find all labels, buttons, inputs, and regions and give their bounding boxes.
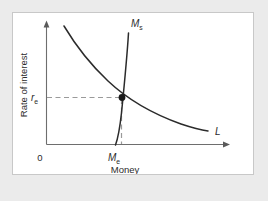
demand-curve-label: L — [215, 126, 221, 137]
supply-curve-label-sub: s — [139, 24, 143, 31]
y-axis-title: Rate of interest — [18, 52, 29, 117]
x-axis-arrow-icon — [223, 142, 230, 148]
origin-label: 0 — [37, 152, 42, 163]
demand-curve-L — [64, 26, 208, 131]
supply-curve-label: Ms — [131, 18, 143, 31]
y-axis-arrow-icon — [44, 21, 50, 28]
equilibrium-guides-group — [47, 98, 122, 145]
axes-group — [44, 21, 230, 148]
figure-frame: Ms L re Me 0 Money Rate of interest — [0, 0, 268, 201]
figure-panel: Ms L re Me 0 Money Rate of interest — [12, 12, 254, 175]
equilibrium-point-dot — [119, 94, 126, 101]
equilibrium-rate-label-sub: e — [34, 98, 38, 105]
money-market-chart: Ms L re Me 0 Money Rate of interest — [13, 13, 253, 174]
x-axis-title: Money — [111, 164, 140, 174]
equilibrium-rate-label: re — [31, 92, 38, 105]
equilibrium-money-label: Me — [108, 152, 120, 165]
